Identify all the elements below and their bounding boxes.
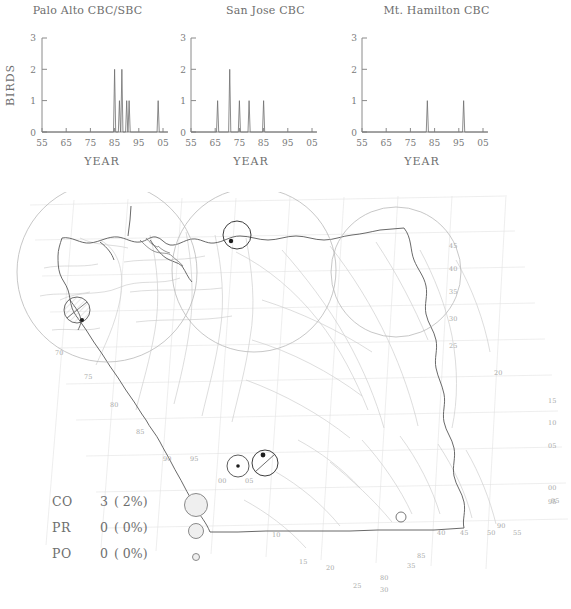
y-axis: 3 2 1 0 [180, 33, 196, 138]
x-tick-1: 65 [209, 138, 221, 148]
chart-san-jose: San Jose CBC 3 2 1 0 55 [178, 0, 353, 190]
y-tick-1: 1 [180, 96, 186, 106]
map-grid-label: 10 [548, 419, 556, 427]
map-grid-label: 80 [380, 574, 388, 582]
x-tick-3: 85 [109, 138, 121, 148]
legend-circle-small [192, 553, 200, 561]
legend-symbol-pr [176, 518, 216, 544]
map-grid-label: 15 [548, 397, 556, 405]
y-tick-3: 3 [351, 33, 357, 43]
map-grid-label: 15 [299, 558, 307, 566]
y-axis: 3 2 1 0 BIRDS [4, 33, 47, 138]
map-grid-label: 45 [460, 529, 468, 537]
map-grid-label: 40 [437, 529, 445, 537]
map-grid-label: 00 [218, 477, 226, 485]
chart-plot-area: 3 2 1 0 55 65 75 85 95 05 YEAR [349, 0, 529, 190]
map-record-circles [64, 221, 406, 522]
map-grid-label: 90 [497, 522, 505, 530]
x-tick-0: 55 [185, 138, 197, 148]
map-grid-label: 80 [110, 401, 118, 409]
map-legend: CO 3 ( 2%) PR 0 ( 0%) PO 0 ( 0%) [52, 492, 252, 572]
range-circle [17, 192, 197, 362]
map-grid-label: 25 [449, 342, 457, 350]
map-coastline [58, 206, 465, 532]
y-tick-2: 2 [30, 65, 36, 75]
x-tick-5: 05 [306, 138, 318, 148]
chart-plot-area: 3 2 1 0 BIRDS 55 65 75 85 95 05 YEA [0, 0, 175, 190]
y-tick-0: 0 [30, 128, 36, 138]
map-grid-label: 10 [272, 531, 280, 539]
map-grid-label: 70 [55, 349, 63, 357]
legend-percent-pr: ( 0%) [114, 520, 166, 535]
y-tick-0: 0 [180, 128, 186, 138]
x-tick-2: 75 [85, 138, 97, 148]
record-dot [261, 453, 266, 458]
record-circle [396, 512, 406, 522]
record-dot [229, 239, 233, 243]
legend-count-po: 0 [94, 546, 108, 561]
map-grid-label: 75 [84, 373, 92, 381]
series-line [191, 69, 317, 132]
map-grid-label: 40 [449, 265, 457, 273]
map-grid-label: 85 [417, 552, 425, 560]
x-tick-1: 65 [60, 138, 72, 148]
map-range-circles [17, 192, 461, 362]
map-grid-label: 45 [449, 242, 457, 250]
y-tick-0: 0 [351, 128, 357, 138]
record-circle [223, 221, 251, 249]
charts-row: Palo Alto CBC/SBC 3 2 1 0 BIRDS [0, 0, 571, 190]
chart-plot-area: 3 2 1 0 55 65 75 85 95 05 YEAR [178, 0, 353, 190]
y-tick-1: 1 [351, 96, 357, 106]
map-grid-label: 25 [353, 582, 361, 590]
record-dot [236, 464, 240, 468]
map-grid-label: 95 [551, 497, 559, 505]
map-grid-label: 55 [513, 529, 521, 537]
legend-code-co: CO [52, 494, 86, 509]
x-axis: 55 65 75 85 95 05 YEAR [185, 128, 318, 168]
legend-count-co: 3 [94, 494, 108, 509]
y-tick-3: 3 [30, 33, 36, 43]
map-grid-label: 35 [407, 562, 415, 570]
x-tick-5: 05 [157, 138, 169, 148]
x-tick-2: 75 [234, 138, 246, 148]
map-grid-label: 05 [245, 477, 253, 485]
y-axis: 3 2 1 0 [351, 33, 367, 138]
legend-circle-medium [188, 523, 204, 539]
legend-percent-co: ( 2%) [114, 494, 166, 509]
legend-row: CO 3 ( 2%) [52, 492, 252, 518]
chart-mt-hamilton: Mt. Hamilton CBC 3 2 1 0 5 [349, 0, 524, 190]
map-grid-label: 95 [190, 455, 198, 463]
series-line [362, 101, 488, 132]
legend-code-pr: PR [52, 520, 86, 535]
map-grid-label: 30 [449, 315, 457, 323]
map-grid-label: 00 [548, 484, 556, 492]
series-line [42, 69, 168, 132]
x-tick-4: 95 [453, 138, 465, 148]
map-grid-label: 35 [449, 288, 457, 296]
x-axis: 55 65 75 85 95 05 YEAR [356, 128, 489, 168]
legend-symbol-po [176, 544, 216, 570]
y-tick-2: 2 [351, 65, 357, 75]
map-grid-label: 50 [487, 529, 495, 537]
map-grid-label: 30 [380, 586, 388, 594]
map-grid-label: 85 [136, 428, 144, 436]
chart-palo-alto: Palo Alto CBC/SBC 3 2 1 0 BIRDS [0, 0, 175, 190]
x-axis: 55 65 75 85 95 05 YEAR [36, 128, 169, 168]
y-tick-1: 1 [30, 96, 36, 106]
x-tick-3: 85 [258, 138, 270, 148]
map-grid-label: 20 [326, 564, 334, 572]
x-tick-1: 65 [380, 138, 392, 148]
legend-code-po: PO [52, 546, 86, 561]
record-dot [80, 318, 84, 322]
x-tick-3: 85 [429, 138, 441, 148]
y-tick-2: 2 [180, 65, 186, 75]
x-tick-5: 05 [477, 138, 489, 148]
y-tick-3: 3 [180, 33, 186, 43]
map-record-dots [80, 239, 265, 468]
x-tick-2: 75 [405, 138, 417, 148]
legend-row: PO 0 ( 0%) [52, 544, 252, 570]
x-tick-4: 95 [282, 138, 294, 148]
legend-symbol-co [176, 492, 216, 518]
x-axis-label: YEAR [403, 155, 440, 168]
y-axis-label: BIRDS [4, 64, 17, 106]
